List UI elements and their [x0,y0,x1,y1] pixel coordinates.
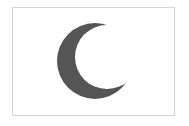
crescent-moon-icon [0,0,189,126]
crescent-shape [57,23,133,99]
